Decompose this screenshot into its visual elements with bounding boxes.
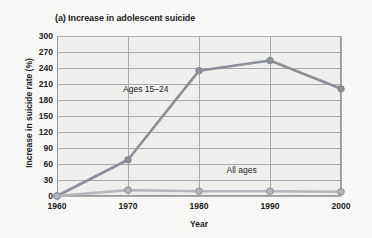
- x-tick-label: 1970: [119, 201, 138, 211]
- data-point-marker: [125, 156, 132, 163]
- y-axis-title: Increase in suicide rate (%): [24, 38, 34, 188]
- y-tick-label: 90: [44, 143, 53, 153]
- y-tick-label: 180: [39, 95, 53, 105]
- data-point-marker: [196, 188, 203, 195]
- series-line: [57, 61, 341, 196]
- data-point-marker: [196, 67, 203, 74]
- data-point-marker: [54, 193, 61, 200]
- chart-title: (a) Increase in adolescent suicide: [55, 13, 195, 23]
- x-tick-label: 2000: [332, 201, 351, 211]
- data-point-marker: [338, 86, 345, 93]
- x-axis-title: Year: [57, 219, 341, 229]
- x-tick-label: 1980: [190, 201, 209, 211]
- x-tick-label: 1990: [261, 201, 280, 211]
- y-tick-label: 300: [39, 31, 53, 41]
- gridline-horizontal: [57, 196, 341, 197]
- data-point-marker: [338, 188, 345, 195]
- series-label-ages-15-24: Ages 15–24: [123, 84, 168, 94]
- data-point-marker: [267, 188, 274, 195]
- y-tick-label: 270: [39, 47, 53, 57]
- x-tick-label: 1960: [48, 201, 67, 211]
- y-tick-label: 0: [48, 191, 53, 201]
- y-tick-label: 240: [39, 63, 53, 73]
- y-tick-label: 150: [39, 111, 53, 121]
- figure-panel: (a) Increase in adolescent suicide Incre…: [0, 0, 372, 238]
- data-point-marker: [267, 57, 274, 64]
- plot-wrapper: 0306090120150180210240270300 19601970198…: [57, 36, 341, 196]
- y-tick-label: 210: [39, 79, 53, 89]
- y-tick-label: 60: [44, 159, 53, 169]
- series-label-all-ages: All ages: [226, 165, 256, 175]
- gridline-vertical: [341, 36, 342, 196]
- data-point-marker: [125, 187, 132, 194]
- series-layer: [57, 36, 341, 196]
- y-tick-label: 30: [44, 175, 53, 185]
- y-tick-label: 120: [39, 127, 53, 137]
